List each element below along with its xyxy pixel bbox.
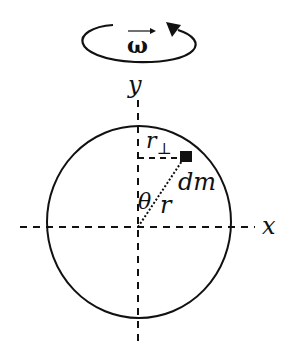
y-axis-label: y	[127, 71, 142, 99]
omega-vector-label: ω	[127, 28, 156, 58]
dm-label: dm	[178, 168, 216, 196]
x-axis-label: x	[262, 212, 276, 240]
mass-element-square	[180, 151, 192, 162]
theta-label: θ	[138, 189, 151, 214]
rotation-diagram: ω y x r⊥ dm θ r	[0, 0, 294, 362]
radius-label: r	[160, 191, 173, 219]
svg-text:ω: ω	[127, 32, 148, 58]
r-perp-label: r⊥	[146, 128, 172, 158]
